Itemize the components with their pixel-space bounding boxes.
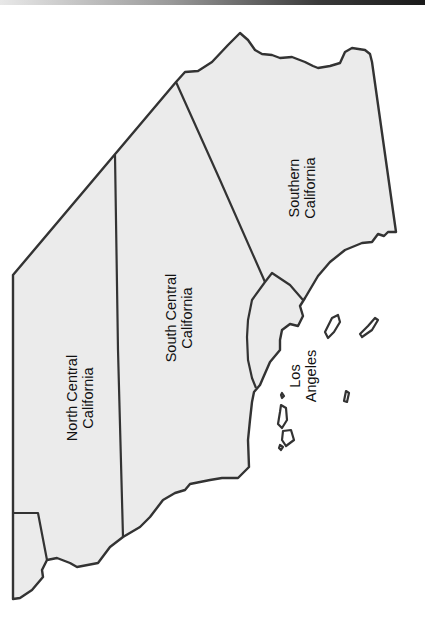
island-7 [281,393,284,398]
region-label-north-central: North Central California [64,338,96,458]
california-regions-map [0,0,425,626]
island-6 [279,445,283,450]
region-label-southern: Southern California [286,138,318,238]
island-3 [344,391,349,402]
island-5 [282,430,294,446]
island-2 [360,318,378,337]
region-label-los-angeles: Los Angeles [287,341,319,411]
island-1 [325,315,340,338]
region-label-south-central: South Central California [163,258,195,378]
island-4 [278,405,287,428]
